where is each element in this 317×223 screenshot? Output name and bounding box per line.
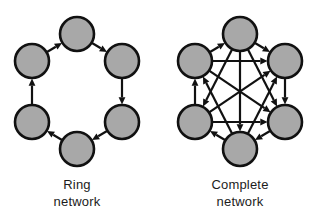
graph-node	[223, 17, 257, 51]
graph-node	[268, 105, 302, 139]
complete-network-caption-line-2: network	[175, 193, 305, 210]
complete-network-caption-line-1: Complete	[175, 176, 305, 193]
graph-node	[178, 105, 212, 139]
ring-network-caption-line-1: Ring	[12, 176, 142, 193]
ring-network-caption-line-2: network	[12, 193, 142, 210]
graph-node	[223, 132, 257, 166]
complete-network-caption: Complete network	[175, 176, 305, 210]
ring-network-caption: Ring network	[12, 176, 142, 210]
graph-node	[60, 132, 94, 166]
graph-node	[105, 44, 139, 78]
graph-node	[15, 44, 49, 78]
graph-node	[60, 17, 94, 51]
graph-node	[178, 44, 212, 78]
graph-node	[268, 44, 302, 78]
graph-node	[15, 105, 49, 139]
graph-node	[105, 105, 139, 139]
